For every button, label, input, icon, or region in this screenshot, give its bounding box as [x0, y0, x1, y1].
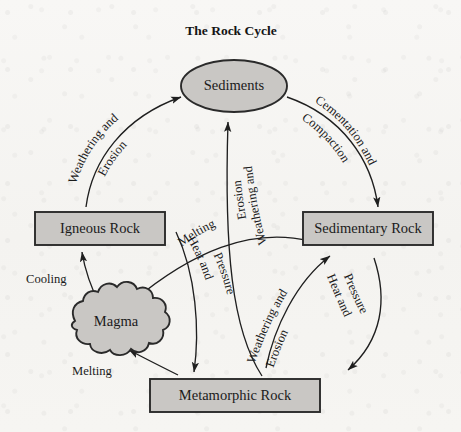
- metamorphic-rock-label: Metamorphic Rock: [179, 387, 292, 403]
- magma-label: Magma: [94, 313, 139, 329]
- node-igneous-rock: Igneous Rock: [35, 212, 165, 245]
- node-sedimentary-rock: Sedimentary Rock: [303, 212, 433, 245]
- rock-cycle-diagram: The Rock Cycle Sediments Igneous Roc: [0, 0, 461, 432]
- node-magma: Magma: [72, 282, 170, 355]
- node-sediments: Sediments: [181, 60, 287, 112]
- label-cooling: Cooling: [26, 272, 67, 286]
- arrow-metamorphic-to-magma: [129, 350, 178, 375]
- arrow-igneous-to-sediments: [86, 97, 181, 207]
- diagram-title: The Rock Cycle: [185, 23, 277, 38]
- label-melting-bottom: Melting: [72, 364, 113, 378]
- sediments-label: Sediments: [204, 77, 265, 93]
- node-metamorphic-rock: Metamorphic Rock: [150, 379, 320, 412]
- igneous-rock-label: Igneous Rock: [60, 220, 141, 236]
- label-heat-pressure-center-line1: Heat and: [185, 234, 217, 282]
- sedimentary-rock-label: Sedimentary Rock: [314, 220, 422, 236]
- diagram-canvas: The Rock Cycle Sediments Igneous Roc: [0, 0, 461, 432]
